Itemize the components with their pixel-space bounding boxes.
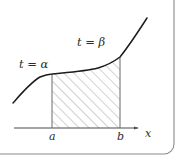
x-axis-label: x — [145, 127, 152, 140]
figure-frame: t = α t = β a b x — [0, 0, 182, 161]
figure-diagram: t = α t = β a b x — [0, 0, 182, 161]
beta-annotation-label: t = β — [77, 35, 106, 49]
alpha-annotation-label: t = α — [19, 57, 49, 71]
bound-label-b: b — [117, 130, 124, 143]
bound-label-a: a — [49, 130, 56, 143]
